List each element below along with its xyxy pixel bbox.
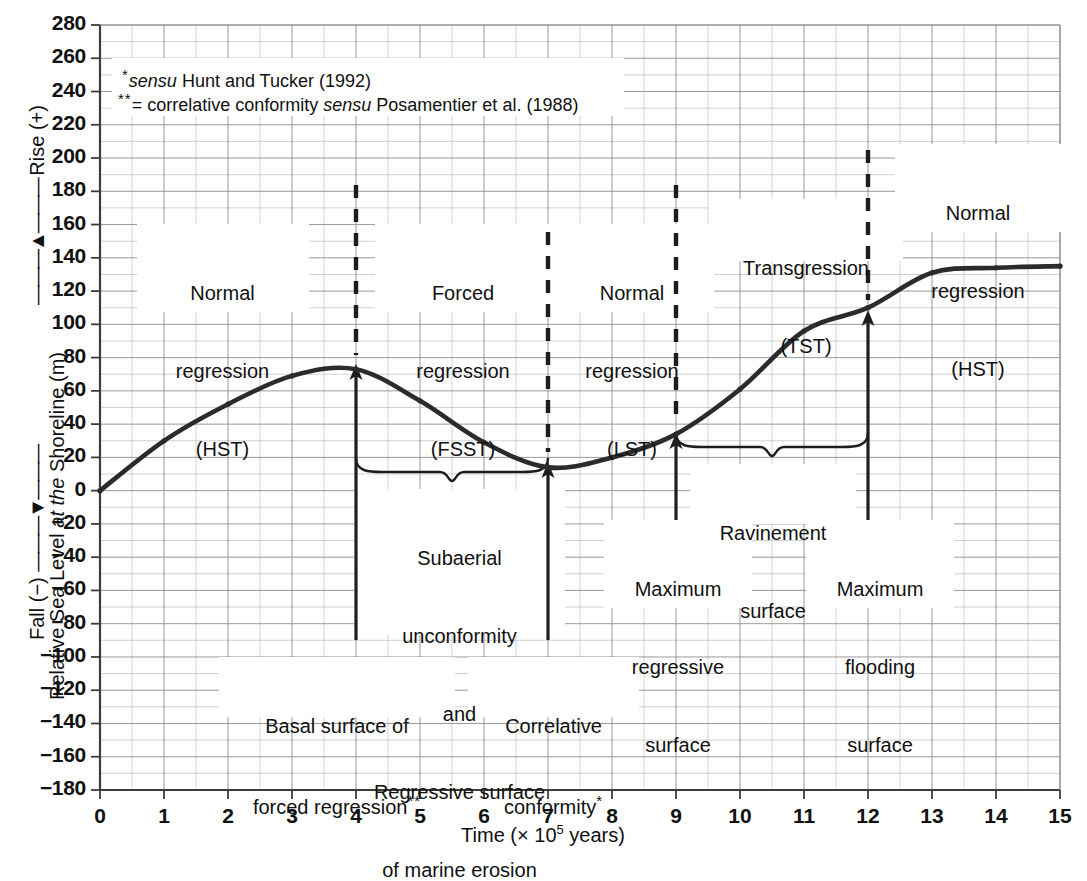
basal-line2: forced regression [253, 796, 408, 818]
y-tick-label: −120 [0, 676, 86, 701]
surface-label-correlative-conformity: Correlative conformity* [471, 661, 636, 872]
y-axis-rise-arrow: ———▲——— [26, 176, 48, 305]
max-flooding-line2: flooding [810, 654, 950, 680]
zone-label-normal-regression-hst-right: Normal regression (HST) [898, 148, 1058, 434]
x-tick-label: 1 [134, 804, 194, 829]
basal-marker: ** [407, 792, 421, 809]
surface-label-basal-surface-forced-regression: Basal surface of forced regression** [222, 661, 452, 872]
zone-label-forced-regression-fsst: Forced regression (FSST) [378, 228, 548, 514]
y-tick-label: 100 [0, 310, 86, 335]
y-tick-label: 240 [0, 78, 86, 103]
basal-line1: Basal surface of [222, 713, 452, 739]
zone-label-normal-regression-lst: Normal regression (LST) [553, 228, 711, 514]
y-axis-fall-arrow: ———▼——— [26, 446, 48, 572]
y-tick-label: 260 [0, 44, 86, 69]
zone-label-transgression-tst: Transgression (TST) [712, 203, 900, 411]
y-tick-label: 280 [0, 11, 86, 36]
y-axis-title-main-italic: at the [46, 478, 68, 528]
y-tick-marks [91, 25, 100, 790]
zone-1-line2: regression [378, 358, 548, 384]
y-tick-label: 60 [0, 377, 86, 402]
correlative-line2: conformity [504, 796, 596, 818]
zone-3-line2: (TST) [712, 333, 900, 359]
note-2-prefix: = correlative conformity [132, 95, 324, 115]
y-axis-title-main: Relative Sea Level at the Shoreline (m) [46, 352, 70, 700]
note-line-2: **= correlative conformity sensu Posamen… [118, 90, 578, 116]
zone-3-line1: Transgression [712, 255, 900, 281]
surface-label-maximum-flooding-surface: Maximum flooding surface [810, 524, 950, 810]
zone-4-line3: (HST) [898, 356, 1058, 382]
zone-2-line2: regression [553, 358, 711, 384]
y-axis-title-rise: Rise (+) [26, 105, 48, 176]
correlative-marker: * [596, 792, 603, 809]
y-axis-title-rise-group: ———▲——— Rise (+) [26, 105, 50, 305]
x-tick-label: 15 [1030, 804, 1087, 829]
subaerial-line1: Subaerial [357, 545, 562, 571]
x-tick-label: 0 [70, 804, 130, 829]
zone-label-normal-regression-hst-left: Normal regression (HST) [140, 228, 305, 514]
zone-2-line3: (LST) [553, 436, 711, 462]
zone-1-line1: Forced [378, 280, 548, 306]
zone-0-line2: regression [140, 358, 305, 384]
note-2-italic: sensu [323, 95, 371, 115]
max-regressive-line1: Maximum [608, 576, 748, 602]
basal-line2-wrap: forced regression** [222, 791, 452, 820]
y-tick-label: 40 [0, 410, 86, 435]
note-1-italic: sensu [129, 71, 177, 91]
zone-0-line1: Normal [140, 280, 305, 306]
y-axis-title-main-1: Relative Sea Level [46, 528, 68, 700]
note-1-marker: * [122, 66, 129, 83]
y-tick-label: −180 [0, 776, 86, 801]
note-2-text: Posamentier et al. (1988) [371, 95, 578, 115]
note-1-text: Hunt and Tucker (1992) [177, 71, 371, 91]
correlative-line1: Correlative [471, 713, 636, 739]
note-line-1: *sensu Hunt and Tucker (1992) [122, 66, 371, 92]
correlative-line2-wrap: conformity* [471, 791, 636, 820]
zone-0-line3: (HST) [140, 436, 305, 462]
zone-1-line3: (FSST) [378, 436, 548, 462]
note-2-marker: ** [118, 90, 132, 107]
y-tick-label: −100 [0, 643, 86, 668]
y-tick-label: 80 [0, 344, 86, 369]
y-axis-title-fall: Fall (−) [26, 577, 48, 640]
y-axis-title-main-2: Shoreline (m) [46, 352, 68, 478]
max-flooding-line1: Maximum [810, 576, 950, 602]
x-tick-label: 14 [966, 804, 1026, 829]
max-flooding-line3: surface [810, 732, 950, 758]
y-tick-label: −140 [0, 709, 86, 734]
subaerial-line2: unconformity [357, 623, 562, 649]
zone-4-line2: regression [898, 278, 1058, 304]
zone-4-line1: Normal [898, 200, 1058, 226]
zone-2-line1: Normal [553, 280, 711, 306]
y-tick-label: −160 [0, 743, 86, 768]
